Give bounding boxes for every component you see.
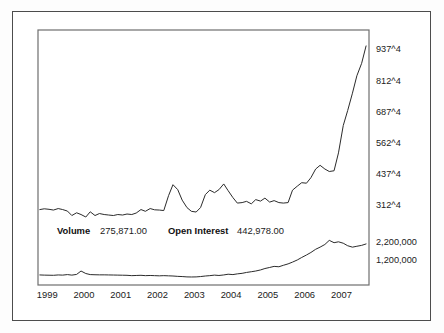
price-tick-label: 812^4 (376, 76, 401, 86)
x-tick-label: 1999 (37, 289, 58, 300)
price-tick-label: 437^4 (376, 169, 401, 179)
price-tick-label: 562^4 (376, 138, 401, 148)
x-axis-ticks: 199920002001200220032004200520062007 (37, 289, 352, 300)
x-tick-label: 2002 (147, 289, 168, 300)
legend-volume-label: Volume (57, 225, 90, 236)
volume-tick-label: 1,200,000 (376, 255, 417, 265)
x-tick-label: 2006 (294, 289, 315, 300)
financial-chart: 937^4812^4687^4562^4437^4312^4 2,200,000… (0, 0, 444, 333)
price-tick-label: 687^4 (376, 107, 401, 117)
volume-axis-ticks: 2,200,0001,200,000 (376, 237, 417, 265)
legend-volume-value: 275,871.00 (100, 225, 147, 236)
volume-tick-label: 2,200,000 (376, 237, 417, 247)
price-tick-label: 312^4 (376, 200, 401, 210)
price-axis-ticks: 937^4812^4687^4562^4437^4312^4 (376, 44, 401, 209)
chart-figure: 937^4812^4687^4562^4437^4312^4 2,200,000… (0, 0, 444, 333)
x-tick-label: 2005 (257, 289, 278, 300)
x-tick-label: 2004 (221, 289, 242, 300)
x-tick-label: 2007 (331, 289, 352, 300)
plot-area-frame (38, 30, 369, 285)
legend-open-interest-value: 442,978.00 (237, 225, 284, 236)
x-tick-label: 2000 (74, 289, 95, 300)
x-tick-label: 2003 (184, 289, 205, 300)
price-tick-label: 937^4 (376, 44, 401, 54)
x-tick-label: 2001 (110, 289, 131, 300)
legend-open-interest-label: Open Interest (168, 225, 228, 236)
